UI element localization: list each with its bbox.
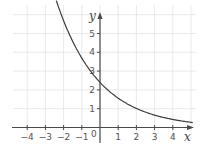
x-axis-label: x [184,130,191,144]
x-tick-label: −2 [57,132,70,142]
x-tick-label: −3 [39,132,52,142]
grid [13,5,196,140]
x-tick-label: −4 [21,132,35,142]
y-tick-label: 4 [89,47,95,57]
y-axis-label: y [88,9,96,23]
y-axis-arrow-icon [98,12,103,19]
y-tick-label: 1 [89,104,95,114]
axes [12,12,194,143]
tick-labels: −4−3−2−1123412345 [21,29,176,143]
x-tick-label: 3 [152,132,158,142]
exponential-curve [56,1,193,123]
origin-label: 0 [91,129,97,139]
y-tick-label: 5 [89,29,95,39]
x-tick-label: 2 [134,132,140,142]
x-tick-label: −1 [75,132,88,142]
x-tick-label: 4 [170,132,176,142]
exponential-graph: −4−3−2−1123412345 0 x y [0,0,209,150]
x-tick-label: 1 [115,132,121,142]
y-tick-label: 2 [89,85,95,95]
